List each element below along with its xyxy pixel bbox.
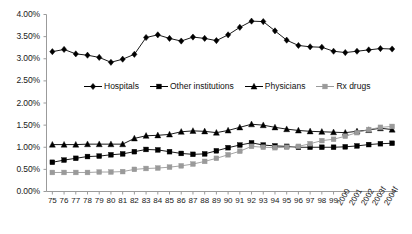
data-point <box>85 52 90 58</box>
data-point <box>85 154 90 159</box>
data-point <box>261 145 266 150</box>
legend-item-physicians[interactable]: Physicians <box>245 82 306 91</box>
square-marker-icon <box>316 82 334 91</box>
data-point <box>366 127 371 132</box>
data-point <box>249 144 254 149</box>
data-point <box>202 151 207 156</box>
data-point <box>319 138 324 143</box>
y-tick-label: 0.00% <box>0 186 40 196</box>
y-tick-label: 3.00% <box>0 53 40 63</box>
data-point <box>378 125 383 130</box>
legend-item-hospitals[interactable]: Hospitals <box>84 82 139 91</box>
data-point <box>226 152 231 157</box>
data-point <box>214 148 219 153</box>
data-point <box>343 49 348 55</box>
legend-label: Hospitals <box>104 82 139 91</box>
data-point <box>61 46 66 52</box>
y-tick-label: 1.50% <box>0 120 40 130</box>
data-point <box>202 159 207 164</box>
data-point <box>354 48 359 54</box>
data-point <box>378 45 383 51</box>
data-point <box>108 59 113 65</box>
data-point <box>132 167 137 172</box>
data-point <box>273 145 278 150</box>
data-point <box>155 166 160 171</box>
data-point <box>390 141 395 146</box>
data-point <box>331 48 336 54</box>
legend-item-other-institutions[interactable]: Other institutions <box>150 82 234 91</box>
data-point <box>120 169 125 174</box>
data-point <box>308 141 313 146</box>
data-point <box>50 170 55 175</box>
series-hospitals <box>50 18 395 65</box>
y-tick-label: 0.50% <box>0 164 40 174</box>
legend-label: Other institutions <box>170 82 234 91</box>
data-point <box>179 38 184 44</box>
data-point <box>237 149 242 154</box>
data-point <box>214 156 219 161</box>
data-point <box>319 44 324 50</box>
data-point <box>390 46 395 52</box>
data-point <box>343 134 348 139</box>
data-point <box>331 145 336 150</box>
data-point <box>237 143 242 148</box>
legend-item-rx-drugs[interactable]: Rx drugs <box>316 82 370 91</box>
data-point <box>284 145 289 150</box>
data-point <box>155 148 160 153</box>
data-point <box>366 142 371 147</box>
data-point <box>62 158 67 163</box>
data-point <box>50 49 55 55</box>
data-point <box>97 154 102 159</box>
data-point <box>62 170 67 175</box>
data-point <box>73 170 78 175</box>
data-point <box>378 141 383 146</box>
data-point <box>308 44 313 50</box>
data-point <box>355 144 360 149</box>
data-point <box>155 32 160 38</box>
data-point <box>296 42 301 48</box>
line-chart: HospitalsOther institutionsPhysiciansRx … <box>0 0 412 234</box>
data-point <box>73 51 78 57</box>
y-tick-label: 2.00% <box>0 98 40 108</box>
data-point <box>190 34 195 40</box>
data-point <box>261 18 266 24</box>
data-point <box>144 147 149 152</box>
data-point <box>249 121 255 127</box>
data-point <box>343 144 348 149</box>
data-point <box>390 124 395 129</box>
data-point <box>191 152 196 157</box>
data-point <box>109 152 114 157</box>
data-point <box>331 137 336 142</box>
data-point <box>202 35 207 41</box>
data-point <box>179 163 184 168</box>
data-point <box>296 144 301 149</box>
y-tick-label: 2.50% <box>0 75 40 85</box>
data-point <box>249 18 254 24</box>
data-point <box>85 170 90 175</box>
data-point <box>167 165 172 170</box>
data-point <box>226 145 231 150</box>
data-point <box>366 47 371 53</box>
data-point <box>120 56 125 62</box>
data-point <box>132 149 137 154</box>
data-point <box>226 32 231 38</box>
data-point <box>167 35 172 41</box>
data-point <box>167 149 172 154</box>
data-point <box>284 37 289 43</box>
legend-label: Rx drugs <box>336 82 370 91</box>
data-point <box>97 170 102 175</box>
chart-legend: HospitalsOther institutionsPhysiciansRx … <box>84 82 370 91</box>
data-point <box>50 160 55 165</box>
data-point <box>191 162 196 167</box>
data-point <box>179 151 184 156</box>
data-point <box>144 166 149 171</box>
data-point <box>237 24 242 30</box>
y-tick-label: 1.00% <box>0 142 40 152</box>
diamond-marker-icon <box>84 82 102 91</box>
triangle-marker-icon <box>245 82 263 91</box>
legend-label: Physicians <box>265 82 306 91</box>
axis-lines <box>47 15 399 192</box>
square-marker-icon <box>150 82 168 91</box>
data-point <box>355 130 360 135</box>
data-point <box>109 170 114 175</box>
